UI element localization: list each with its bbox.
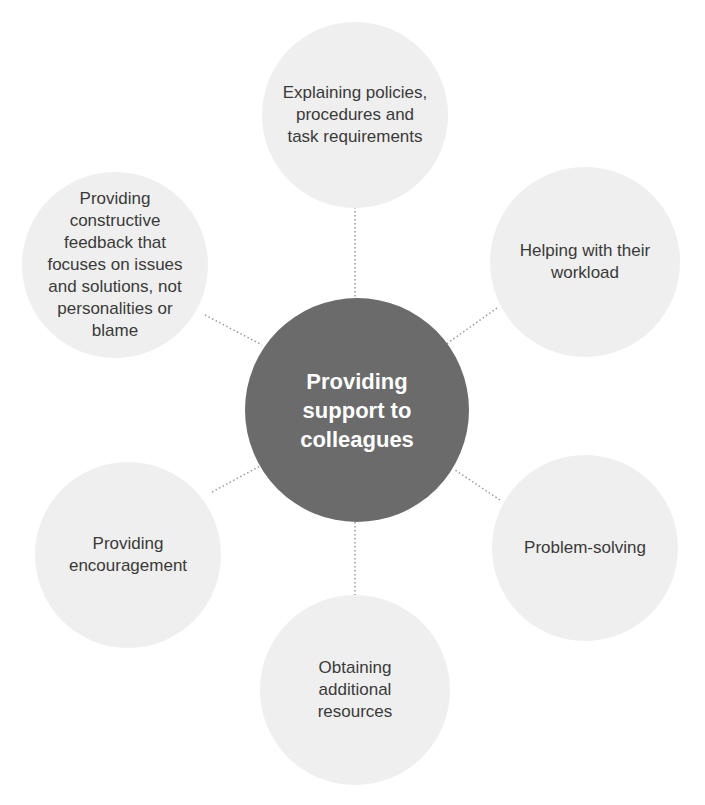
center-label: Providing support to colleagues — [300, 367, 414, 454]
node-label: Providing encouragement — [69, 533, 187, 577]
node-problem-solving: Problem-solving — [492, 455, 678, 641]
connector-bottom-left — [212, 465, 262, 492]
node-obtaining-resources: Obtaining additional resources — [260, 595, 450, 785]
connector-top-right — [445, 308, 497, 345]
node-helping-workload: Helping with their workload — [490, 167, 680, 357]
node-label: Providing constructive feedback that foc… — [47, 188, 182, 342]
connector-bottom-right — [455, 470, 500, 500]
node-providing-encouragement: Providing encouragement — [35, 462, 221, 648]
connector-top-left — [205, 315, 262, 345]
center-node-providing-support: Providing support to colleagues — [245, 298, 469, 522]
node-label: Obtaining additional resources — [318, 657, 393, 723]
node-label: Explaining policies, procedures and task… — [283, 82, 428, 148]
node-label: Helping with their workload — [520, 240, 650, 284]
node-label: Problem-solving — [524, 537, 646, 559]
node-explaining-policies: Explaining policies, procedures and task… — [262, 22, 448, 208]
node-constructive-feedback: Providing constructive feedback that foc… — [22, 172, 208, 358]
